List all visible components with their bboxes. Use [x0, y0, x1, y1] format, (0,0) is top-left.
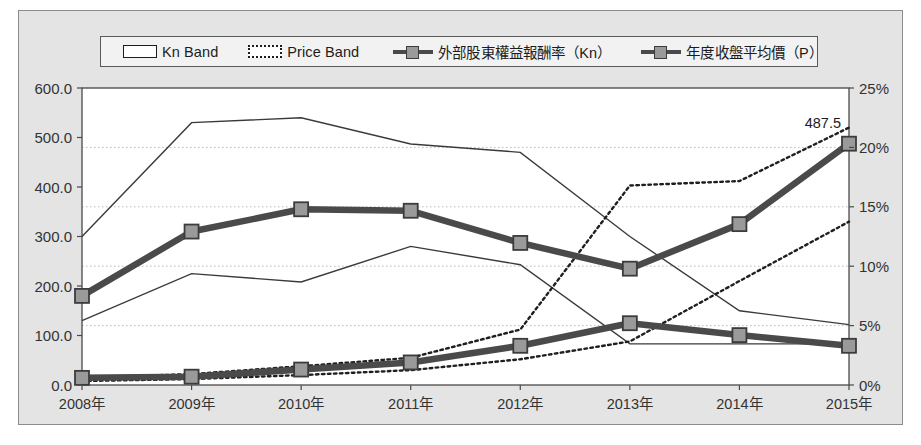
- avg-price-series-marker[interactable]: [185, 225, 199, 239]
- kn-rate-series-marker[interactable]: [623, 316, 637, 330]
- x-axis-tick-label: 2009年: [168, 396, 214, 412]
- y2-axis-tick-label: 25%: [859, 80, 889, 97]
- avg-price-series-marker[interactable]: [732, 217, 746, 231]
- kn-rate-series-marker[interactable]: [732, 328, 746, 342]
- avg-price-series-marker[interactable]: [404, 204, 418, 218]
- x-axis-tick-label: 2008年: [59, 396, 105, 412]
- y2-axis-tick-label: 10%: [859, 258, 889, 275]
- x-axis-tick-label: 2015年: [826, 396, 872, 412]
- y2-axis-tick-label: 20%: [859, 139, 889, 156]
- chart-plot: 0.0100.0200.0300.0400.0500.0600.00%5%10%…: [0, 0, 921, 445]
- kn-rate-series-marker[interactable]: [404, 355, 418, 369]
- kn-rate-series-marker[interactable]: [294, 363, 308, 377]
- x-axis-tick-label: 2012年: [497, 396, 543, 412]
- avg-price-series-marker[interactable]: [513, 236, 527, 250]
- avg-price-series-marker[interactable]: [294, 202, 308, 216]
- y-axis-tick-label: 200.0: [34, 278, 72, 295]
- x-axis-tick-label: 2014年: [716, 396, 762, 412]
- y-axis-tick-label: 400.0: [34, 179, 72, 196]
- x-axis-tick-label: 2011年: [388, 396, 433, 412]
- kn-rate-series-marker[interactable]: [185, 370, 199, 384]
- avg-price-series-marker[interactable]: [75, 289, 89, 303]
- kn-rate-series-marker[interactable]: [513, 339, 527, 353]
- y2-axis-tick-label: 5%: [859, 317, 881, 334]
- avg-price-series-marker[interactable]: [842, 137, 856, 151]
- y-axis-tick-label: 500.0: [34, 129, 72, 146]
- x-axis-tick-label: 2013年: [607, 396, 653, 412]
- y-axis-tick-label: 300.0: [34, 228, 72, 245]
- y2-axis-tick-label: 0%: [859, 377, 881, 394]
- y-axis-tick-label: 600.0: [34, 80, 72, 97]
- data-label: 487.5: [805, 115, 841, 131]
- y-axis-tick-label: 0.0: [51, 377, 72, 394]
- y2-axis-tick-label: 15%: [859, 198, 889, 215]
- y-axis-tick-label: 100.0: [34, 327, 72, 344]
- kn-rate-series-marker[interactable]: [842, 339, 856, 353]
- avg-price-series-marker[interactable]: [623, 262, 637, 276]
- kn-rate-series-marker[interactable]: [75, 371, 89, 385]
- x-axis-tick-label: 2010年: [278, 396, 324, 412]
- chart-screenshot: Kn Band Price Band 外部股東權益報酬率（Kn） 年度收盤平均價…: [0, 0, 921, 445]
